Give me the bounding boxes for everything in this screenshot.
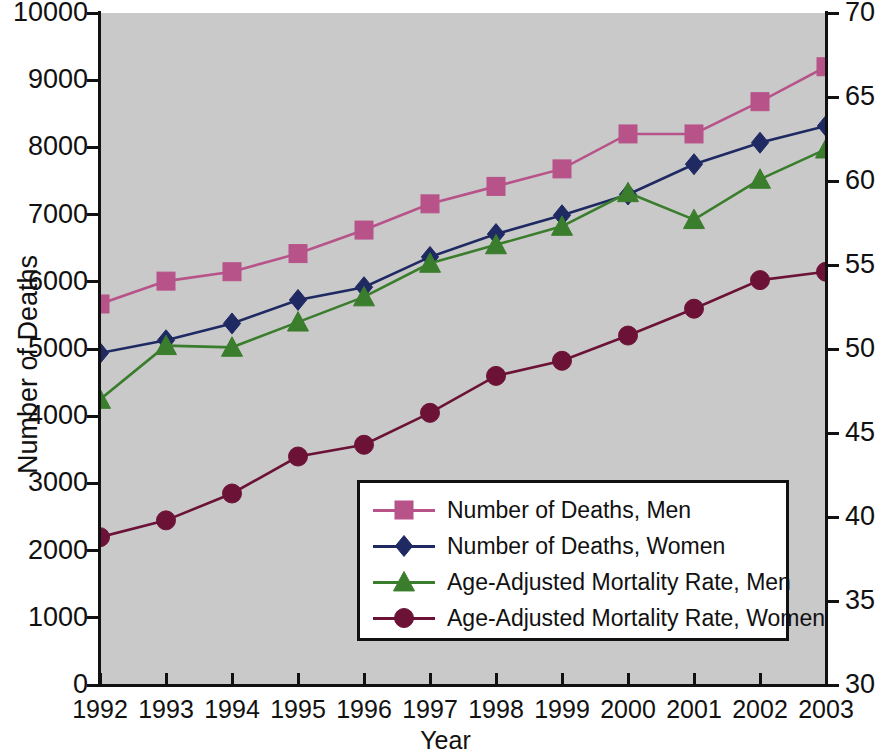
y-axis-left-tick: [87, 213, 100, 216]
y-axis-right-tick-label: 65: [845, 83, 875, 110]
x-axis-tick: [99, 673, 102, 686]
y-axis-left-tick: [87, 616, 100, 619]
x-axis-tick: [627, 673, 630, 686]
y-axis-right-tick-label: 70: [845, 0, 875, 26]
data-point-marker: [289, 289, 306, 310]
x-axis-tick: [693, 673, 696, 686]
legend-item[interactable]: Age-Adjusted Mortality Rate, Men: [360, 564, 786, 600]
chart-figure: 0100020003000400050006000700080009000100…: [0, 0, 891, 755]
y-axis-left-tick-label: 0: [73, 671, 88, 698]
y-axis-right-tick: [826, 684, 839, 687]
data-point-marker: [288, 312, 309, 331]
data-point-marker: [421, 403, 440, 422]
y-axis-right-tick-label: 30: [845, 671, 875, 698]
data-point-marker: [750, 169, 771, 188]
x-axis-tick-label: 2000: [600, 697, 656, 722]
data-point-marker: [100, 528, 110, 547]
data-point-marker: [751, 271, 770, 290]
data-point-marker: [552, 216, 573, 235]
legend-swatch: [373, 500, 435, 520]
y-axis-left-title: Number of Deaths: [13, 185, 44, 545]
data-point-marker: [685, 125, 703, 143]
x-axis-tick: [759, 673, 762, 686]
x-axis-tick: [165, 673, 168, 686]
data-point-marker: [223, 263, 241, 281]
y-axis-left-tick: [87, 348, 100, 351]
y-axis-left-tick: [87, 146, 100, 149]
series-line: [100, 126, 826, 353]
data-point-marker: [619, 125, 637, 143]
data-point-marker: [394, 572, 415, 591]
data-point-marker: [684, 209, 705, 228]
legend-label: Number of Deaths, Men: [447, 499, 691, 522]
data-point-marker: [289, 447, 308, 466]
x-axis-tick-label: 2003: [798, 697, 854, 722]
x-axis-tick-label: 1999: [534, 697, 590, 722]
y-axis-right-tick-label: 50: [845, 335, 875, 362]
y-axis-right-tick: [826, 432, 839, 435]
y-axis-left-tick: [87, 280, 100, 283]
legend: Number of Deaths, MenNumber of Deaths, W…: [357, 480, 789, 641]
x-axis-tick-label: 1992: [72, 697, 128, 722]
data-point-marker: [289, 245, 307, 263]
legend-label: Age-Adjusted Mortality Rate, Men: [447, 571, 791, 594]
y-axis-left-tick: [87, 79, 100, 82]
x-axis-tick-label: 1995: [270, 697, 326, 722]
x-axis-tick-label: 2001: [666, 697, 722, 722]
x-axis-tick: [495, 673, 498, 686]
data-point-marker: [355, 435, 374, 454]
y-axis-left-tick-label: 1000: [28, 604, 88, 631]
y-axis-left-tick-label: 8000: [28, 133, 88, 160]
y-axis-right-tick: [826, 96, 839, 99]
legend-swatch: [373, 536, 435, 556]
legend-label: Age-Adjusted Mortality Rate, Women: [447, 607, 825, 630]
y-axis-left-tick: [87, 415, 100, 418]
x-axis-tick: [825, 673, 828, 686]
legend-item[interactable]: Number of Deaths, Men: [360, 492, 786, 528]
legend-swatch: [373, 572, 435, 592]
data-point-marker: [751, 132, 768, 153]
y-axis-right-tick: [826, 12, 839, 15]
y-axis-right-tick: [826, 264, 839, 267]
y-axis-right-tick: [826, 180, 839, 183]
legend-marker-icon: [392, 498, 416, 522]
x-axis-tick-label: 1998: [468, 697, 524, 722]
y-axis-left-tick: [87, 12, 100, 15]
series-line: [100, 67, 826, 304]
x-axis-tick: [297, 673, 300, 686]
x-axis-tick-label: 1997: [402, 697, 458, 722]
y-axis-right-tick: [826, 516, 839, 519]
x-axis-tick-label: 1993: [138, 697, 194, 722]
legend-marker-icon: [392, 534, 416, 558]
x-axis-tick: [561, 673, 564, 686]
y-axis-right-tick-label: 60: [845, 167, 875, 194]
y-axis-left-tick-label: 9000: [28, 66, 88, 93]
data-point-marker: [685, 154, 702, 175]
legend-swatch: [373, 608, 435, 628]
x-axis-tick-label: 1994: [204, 697, 260, 722]
y-axis-right-tick-label: 40: [845, 503, 875, 530]
series-group: [100, 139, 826, 409]
data-point-marker: [223, 313, 240, 334]
legend-marker-icon: [392, 570, 416, 594]
y-axis-right-tick: [826, 348, 839, 351]
x-axis-tick-label: 1996: [336, 697, 392, 722]
data-point-marker: [685, 299, 704, 318]
legend-item[interactable]: Number of Deaths, Women: [360, 528, 786, 564]
x-axis-title: Year: [0, 726, 891, 755]
data-point-marker: [619, 326, 638, 345]
legend-item[interactable]: Age-Adjusted Mortality Rate, Women: [360, 600, 786, 636]
data-point-marker: [395, 501, 413, 519]
data-point-marker: [553, 351, 572, 370]
y-axis-left-tick: [87, 549, 100, 552]
x-axis-tick: [231, 673, 234, 686]
data-point-marker: [157, 272, 175, 290]
y-axis-left-tick: [87, 482, 100, 485]
legend-label: Number of Deaths, Women: [447, 535, 725, 558]
x-axis-tick-label: 2002: [732, 697, 788, 722]
data-point-marker: [157, 511, 176, 530]
x-axis-tick: [429, 673, 432, 686]
legend-marker-icon: [392, 606, 416, 630]
series-group: [100, 115, 826, 363]
data-point-marker: [395, 536, 412, 557]
